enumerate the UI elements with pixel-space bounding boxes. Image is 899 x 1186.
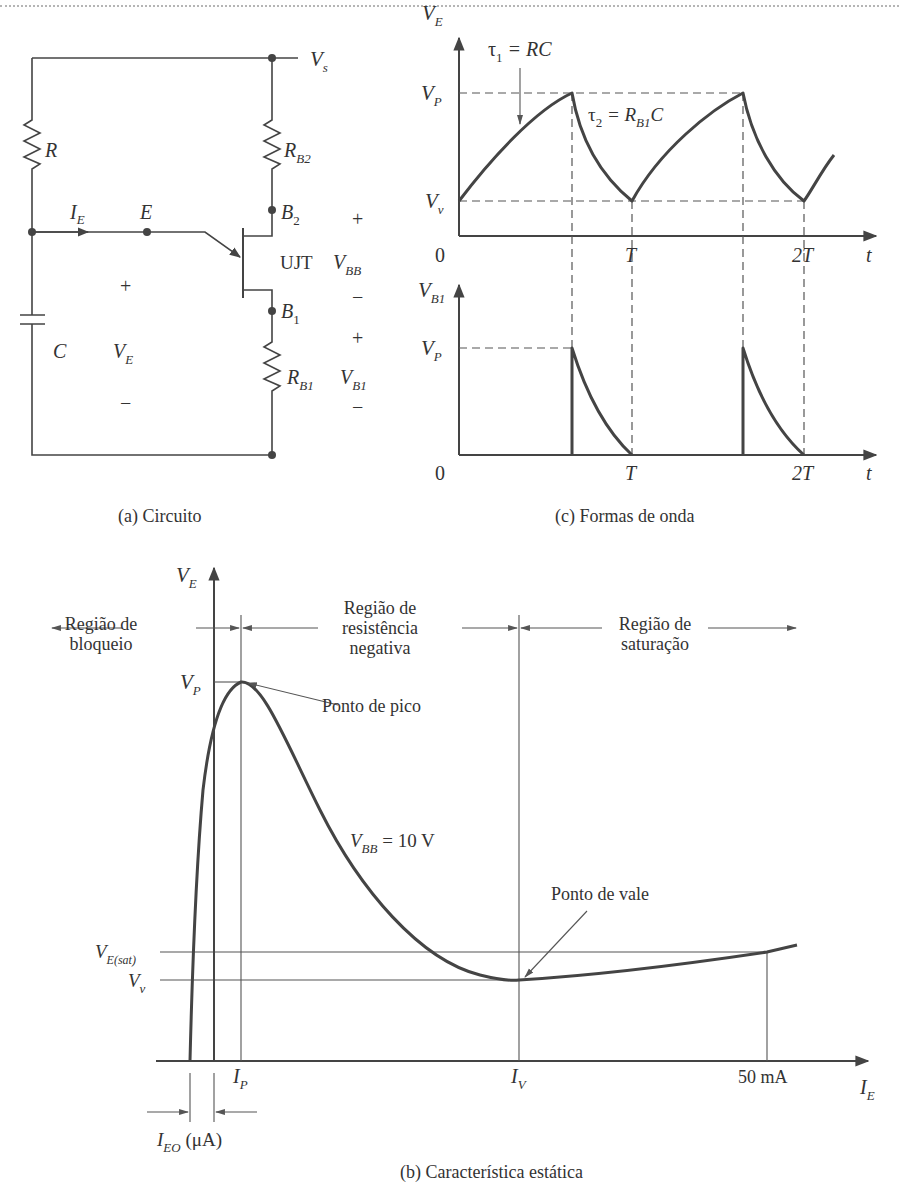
peak-point-label: Ponto de pico [322,696,421,716]
ie-axis-label-char: IE [859,1076,875,1103]
vv-label-char: Vv [128,970,146,996]
ve-plus: + [120,275,131,297]
ieo-extension-lines [190,1073,214,1122]
base2-node [268,206,276,214]
circuit-panel: Vs R RB2 IE E B2 + UJT VBB − B1 + + C VE… [20,47,367,527]
2t-tick-top: 2T [792,244,815,266]
origin-bottom: 0 [435,462,445,484]
region-sat-line1: Região de [619,614,691,634]
ve-axis-label: VE [422,1,443,29]
emitter-current-label: IE [69,201,85,227]
t-tick-top: T [625,244,638,266]
origin-top: 0 [435,244,445,266]
vbb-plus: + [352,208,363,230]
vb1-pulse-1 [572,348,632,455]
vbb-label: VBB [333,251,361,278]
caption-circuit: (a) Circuito [118,506,201,527]
50ma-label: 50 mA [738,1067,788,1087]
valley-pointer [525,911,587,977]
region-cutoff-line1: Região de [65,614,137,634]
vv-label-top: Vv [425,189,444,217]
vb1-minus: − [352,396,363,418]
emitter-lead [32,232,240,257]
vb1-label: VB1 [340,366,367,393]
ujt-base2-lead [243,212,272,236]
resistor-r-label: R [44,139,57,161]
region-cutoff-line2: bloqueio [70,634,133,654]
resistor-r [24,58,40,232]
tau1-label: τ1 = RC [488,38,552,65]
resistor-rb1 [264,311,280,455]
ujt-label: UJT [280,252,313,273]
tau2-label: τ2 = RB1C [588,104,664,130]
vp-label-top: VP [421,81,442,109]
vbb-value-label: VBB = 10 V [350,830,435,856]
valley-point-label: Ponto de vale [551,884,649,904]
iv-label: IV [510,1065,528,1092]
figure-canvas: Vs R RB2 IE E B2 + UJT VBB − B1 + + C VE… [0,0,899,1186]
2t-tick-bottom: 2T [792,462,815,484]
ve-minus: − [120,392,131,414]
vb1-axis-label: VB1 [418,278,445,306]
region-negres-line2: resistência [342,618,418,638]
resistor-rb2-label: RB2 [283,139,311,166]
t-axis-label-bottom: t [866,462,872,484]
vp-label-char: VP [180,670,201,698]
region-sat-line2: saturação [621,634,689,654]
base2-label: B2 [281,201,300,228]
figure-page: Vs R RB2 IE E B2 + UJT VBB − B1 + + C VE… [0,0,899,1186]
resistor-rb1-label: RB1 [286,366,314,393]
ve-waveform [459,93,834,201]
caption-characteristic: (b) Característica estática [400,1162,583,1183]
emitter-node-label: E [139,201,152,223]
vp-label-bottom: VP [421,336,442,364]
ujt-characteristic-curve [190,682,797,1061]
t-axis-label-top: t [866,244,872,266]
capacitor-label: C [53,340,67,362]
vesat-label: VE(sat) [95,941,136,967]
ve-label: VE [113,340,133,367]
region-negres-line1: Região de [344,598,416,618]
supply-label: Vs [310,47,328,75]
caption-waveforms: (c) Formas de onda [555,506,694,527]
base1-label: B1 [281,300,300,327]
ip-label: IP [232,1065,248,1092]
vb1-plus: + [352,327,363,349]
characteristic-panel: VE Região de bloqueio Região de resistên… [52,563,875,1183]
ujt-base1-lead [243,290,272,312]
resistor-rb2 [264,58,280,212]
waveforms-panel: VE τ1 = RC VP τ2 = RB1C Vv 0 T 2T t VB1 … [418,1,876,527]
region-negres-line3: negativa [350,638,411,658]
ve-axis-label-char: VE [176,563,197,591]
t-tick-bottom: T [625,462,638,484]
ieo-label: IEO (μA) [156,1129,222,1155]
vb1-pulse-2 [743,348,804,455]
vbb-minus: − [352,286,363,308]
emitter-node [143,228,151,236]
